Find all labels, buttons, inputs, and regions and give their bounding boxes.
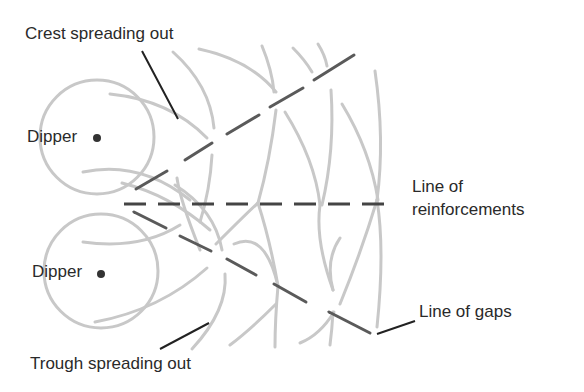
interference-diagram: [0, 0, 584, 392]
crest-label: Crest spreading out: [25, 24, 173, 44]
trough-label: Trough spreading out: [30, 354, 191, 374]
upper-diagonal-line: [136, 55, 354, 189]
lower-dipper-dot: [97, 270, 105, 278]
gaps-leader: [377, 321, 415, 334]
reinforcements-label-line2: reinforcements: [412, 200, 524, 220]
wave-arcs: [40, 44, 381, 349]
upper-dipper-dot: [93, 134, 101, 142]
dipper-bottom-label: Dipper: [32, 262, 82, 282]
dipper-top-label: Dipper: [27, 127, 77, 147]
gaps-label: Line of gaps: [419, 302, 512, 322]
reinforcements-label-line1: Line of: [412, 177, 463, 197]
